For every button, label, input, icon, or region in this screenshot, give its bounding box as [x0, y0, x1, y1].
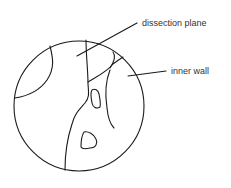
left-region-curve	[15, 46, 53, 98]
central-dividing-line	[65, 40, 89, 170]
inner-wall-curve	[106, 70, 114, 128]
label-dissection-plane: dissection plane	[142, 18, 207, 28]
dissection-plane-line	[88, 57, 123, 82]
label-inner-wall: inner wall	[171, 66, 209, 76]
d-shaped-lumen	[81, 132, 97, 149]
diagram-canvas: dissection plane inner wall	[0, 0, 231, 188]
small-lumen-upper	[91, 89, 101, 108]
outer-circle	[14, 41, 144, 171]
